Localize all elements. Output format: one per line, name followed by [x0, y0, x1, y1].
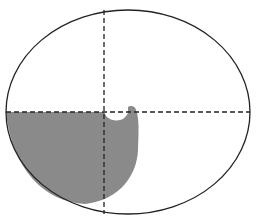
diagram-canvas [0, 0, 257, 224]
shaded-region [6, 106, 139, 204]
